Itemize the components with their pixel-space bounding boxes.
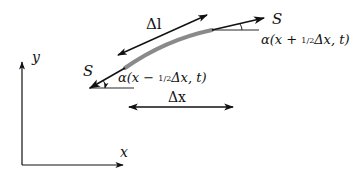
horizontal-span-indicator: Δx	[129, 89, 233, 107]
right-tangent-arrow	[212, 18, 264, 30]
right-tangent-label: S	[272, 10, 282, 28]
left-angle-fraction: 1/2	[158, 74, 171, 83]
right-angle-arc-icon	[240, 24, 242, 30]
arc-length-label: Δl	[146, 15, 162, 33]
horizontal-span-label: Δx	[168, 89, 186, 105]
coordinate-axes: y x	[22, 49, 128, 165]
diagram-canvas: y x S α(x − 1/2Δx, t) S α(x + 1/2Δx, t) …	[0, 0, 358, 180]
left-tangent-label: S	[83, 62, 93, 80]
right-angle-prefix: α(x +	[261, 32, 301, 47]
left-angle-suffix: Δx, t)	[170, 70, 206, 85]
left-angle-prefix: α(x −	[118, 70, 158, 85]
right-tangent-group: S α(x + 1/2Δx, t)	[212, 10, 350, 47]
right-angle-suffix: Δx, t)	[313, 32, 349, 47]
x-axis-label: x	[120, 144, 128, 160]
right-angle-label: α(x + 1/2Δx, t)	[261, 32, 350, 47]
left-angle-arc-icon	[103, 80, 105, 88]
right-angle-fraction: 1/2	[301, 36, 314, 45]
left-angle-label: α(x − 1/2Δx, t)	[118, 70, 207, 85]
y-axis-label: y	[31, 49, 41, 65]
curve-segment	[125, 30, 212, 68]
left-tangent-group: S α(x − 1/2Δx, t)	[83, 62, 207, 88]
